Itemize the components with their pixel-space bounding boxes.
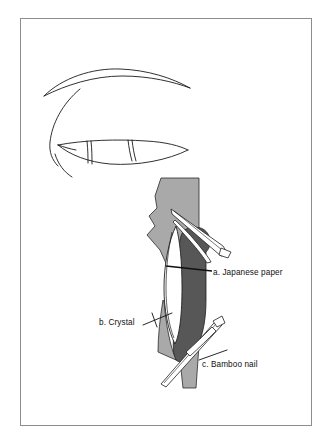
leader-line-bamboo-nail: [199, 350, 227, 360]
bamboo-nail-upper-head: [219, 248, 231, 258]
lens-divider-right: [128, 140, 132, 161]
upper-panel-outline-eye: [44, 69, 190, 177]
label-crystal: b. Crystal: [99, 318, 135, 328]
lens-divider-right-b: [132, 140, 136, 161]
left-sweep-curve: [50, 89, 80, 166]
figure-artwork: [0, 0, 332, 443]
label-japanese-paper: a. Japanese paper: [213, 268, 283, 278]
lens-upper-edge: [58, 140, 188, 150]
brow-upper-curve: [44, 69, 190, 96]
brow-lower-curve: [44, 76, 190, 96]
lower-panel-cross-section: [143, 178, 231, 388]
lens-lower-edge: [58, 145, 188, 164]
figure-page: a. Japanese paper b. Crystal c. Bamboo n…: [0, 0, 332, 443]
label-bamboo-nail: c. Bamboo nail: [202, 360, 258, 370]
